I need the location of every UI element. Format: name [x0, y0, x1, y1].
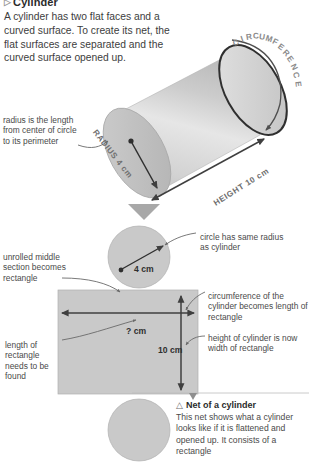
page-title: ▷Cylinder: [4, 0, 58, 8]
caption-title-text: Net of a cylinder: [186, 400, 256, 410]
transform-chevron-icon: [128, 204, 160, 220]
note-radius: radius is the length from center of circ…: [3, 115, 81, 146]
section-marker-icon: ▷: [4, 0, 11, 7]
page-title-text: Cylinder: [13, 0, 58, 8]
caption-block: △Net of a cylinder This net shows what a…: [176, 399, 309, 458]
triangle-marker-icon: △: [176, 399, 183, 411]
caption-title: △Net of a cylinder: [176, 399, 309, 411]
net-rect-length-label: ? cm: [126, 326, 146, 336]
radius-origin-dot: [128, 138, 133, 143]
intro-paragraph: A cylinder has two flat faces and a curv…: [4, 10, 172, 65]
net-rectangle: [58, 278, 205, 394]
note-circle-same-radius: circle has same radius as cylinder: [200, 232, 286, 253]
cylinder-net-figure: ▷Cylinder A cylinder has two flat faces …: [0, 0, 309, 465]
net-rect-width-label: 10 cm: [158, 345, 182, 355]
note-unrolled-section: unrolled middle section becomes rectangl…: [3, 252, 83, 283]
note-length-unknown: length of rectangle needs to be found: [5, 340, 61, 382]
note-circumference-length: circumference of the cylinder becomes le…: [208, 291, 308, 322]
circle-note-pointer: [165, 233, 196, 245]
net-bottom-circle: [108, 399, 170, 461]
note-height-width: height of cylinder is now width of recta…: [208, 333, 304, 354]
net-circle-radius-label: 4 cm: [134, 264, 154, 274]
net-top-circle: [108, 226, 196, 288]
caption-body: This net shows what a cylinder looks lik…: [176, 412, 309, 458]
circumference-label-char: R: [245, 32, 252, 42]
